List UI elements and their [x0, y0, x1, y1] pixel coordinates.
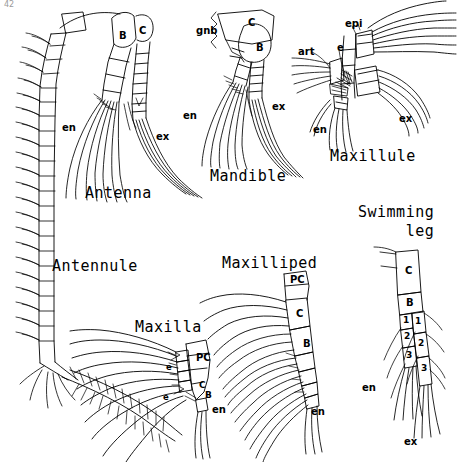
caption-swimming-leg: Swimming leg: [358, 203, 434, 241]
caption-maxillule: Maxillule: [330, 147, 416, 165]
label-maxilla-C: C: [199, 380, 206, 390]
label-maxilla-PC: PC: [196, 352, 211, 363]
label-leg-C: C: [405, 265, 412, 276]
label-maxillule-epi: epi: [345, 18, 362, 29]
label-maxillule-e: e: [337, 42, 344, 53]
label-antenna-ex: ex: [156, 131, 169, 142]
label-antenna-C: C: [139, 25, 146, 36]
label-maxilliped-en: en: [311, 406, 325, 417]
figure-antennule: [16, 12, 182, 452]
figure-antenna: [60, 12, 202, 202]
label-leg-ex: ex: [404, 436, 417, 447]
appendage-plate: 42: [0, 0, 458, 462]
caption-maxilliped: Maxilliped: [222, 254, 317, 272]
label-mandible-en: en: [183, 110, 197, 121]
label-maxilla-en: en: [212, 404, 226, 415]
label-mandible-B: B: [256, 42, 264, 53]
label-maxilliped-B: B: [303, 338, 311, 349]
label-maxilla-e-lower: e: [163, 392, 169, 402]
figure-maxilliped: [200, 271, 322, 462]
label-leg-en-1: 1: [403, 315, 409, 325]
label-maxilla-B: B: [205, 390, 212, 400]
label-leg-en-3: 3: [406, 350, 412, 360]
caption-antenna: Antenna: [85, 184, 152, 202]
caption-mandible: Mandible: [210, 167, 286, 185]
label-maxilliped-C: C: [296, 308, 303, 319]
caption-maxilla: Maxilla: [135, 318, 202, 336]
label-leg-ex-1: 1: [415, 316, 421, 326]
label-maxillule-en: en: [313, 124, 327, 135]
label-leg-ex-3: 3: [421, 363, 427, 373]
label-leg-B: B: [406, 297, 414, 308]
label-antenna-en: en: [62, 122, 76, 133]
figure-maxilla: [70, 330, 210, 462]
label-leg-ex-2: 2: [418, 338, 424, 348]
label-maxillule-ex: ex: [399, 113, 412, 124]
label-maxilla-e-upper: e: [166, 362, 172, 372]
label-mandible-ex: ex: [272, 101, 285, 112]
label-mandible-gnb: gnb: [196, 25, 217, 36]
label-antenna-B: B: [119, 30, 127, 41]
label-maxilliped-PC: PC: [290, 274, 305, 285]
label-leg-en-2: 2: [404, 331, 410, 341]
caption-antennule: Antennule: [52, 257, 138, 275]
label-maxillule-art: art: [298, 46, 314, 57]
label-mandible-C: C: [248, 17, 255, 28]
label-leg-en: en: [362, 382, 376, 393]
